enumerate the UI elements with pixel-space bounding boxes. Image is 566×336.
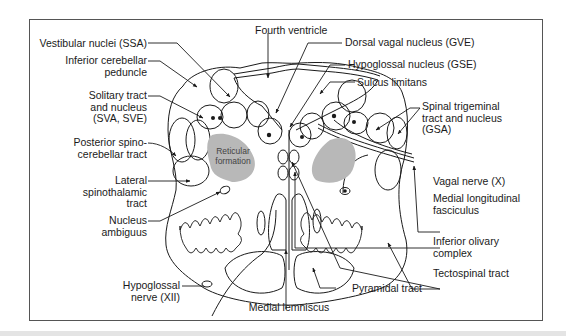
medulla-outline — [166, 63, 408, 306]
label-vagal-nerve: Vagal nerve (X) — [433, 176, 505, 188]
reticular-formation-right — [312, 138, 356, 183]
label-lateral-spinothalamic-tract: Lateral spinothalamic tract — [29, 175, 147, 210]
label-posterior-spinocerebellar-tract: Posterior spino- cerebellar tract — [29, 137, 147, 160]
label-hypoglossal-nucleus: Hypoglossal nucleus (GSE) — [348, 59, 476, 71]
label-spinal-trigeminal: Spinal trigeminal tract and nucleus (GSA… — [422, 101, 502, 136]
label-tectospinal-tract: Tectospinal tract — [433, 268, 509, 280]
label-vestibular-nuclei: Vestibular nuclei (SSA) — [29, 38, 147, 50]
label-medial-lemniscus: Medial lemniscus — [236, 302, 342, 314]
label-inferior-olivary-complex: Inferior olivary complex — [433, 236, 499, 259]
label-pyramidal-tract: Pyramidal tract — [352, 283, 422, 295]
label-nucleus-ambiguus: Nucleus ambiguus — [29, 215, 147, 238]
label-dorsal-vagal-nucleus: Dorsal vagal nucleus (GVE) — [345, 37, 475, 49]
label-hypoglossal-nerve: Hypoglossal nerve (XII) — [60, 280, 180, 303]
label-sulcus-limitans: Sulcus limitans — [357, 77, 427, 89]
label-reticular-formation: Reticular formation — [208, 146, 258, 166]
label-medial-longitudinal-fasciculus: Medial longitudinal fasciculus — [433, 193, 520, 216]
label-inferior-cerebellar-peduncle: Inferior cerebellar peduncle — [29, 55, 147, 78]
olive-left — [180, 212, 242, 253]
label-solitary-tract: Solitary tract and nucleus (SVA, SVE) — [29, 90, 147, 125]
label-fourth-ventricle: Fourth ventricle — [255, 25, 327, 37]
